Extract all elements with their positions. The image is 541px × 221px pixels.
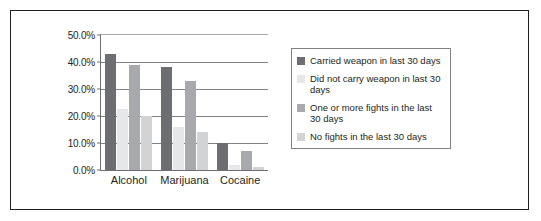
legend-item-label: One or more fights in the last 30 days bbox=[310, 102, 445, 125]
x-axis-category-label: Cocaine bbox=[220, 174, 260, 186]
bar bbox=[185, 81, 196, 170]
chart-legend: Carried weapon in last 30 daysDid not ca… bbox=[291, 48, 451, 149]
plot-area: 50.0%40.0%30.0%20.0%10.0%0.0% AlcoholMar… bbox=[100, 34, 268, 171]
legend-item: Carried weapon in last 30 days bbox=[297, 55, 445, 67]
bar bbox=[141, 116, 152, 170]
legend-item: Did not carry weapon in last 30 days bbox=[297, 73, 445, 96]
bar-group: Cocaine bbox=[212, 35, 268, 170]
bar bbox=[229, 165, 240, 170]
bar bbox=[217, 143, 228, 170]
bar bbox=[173, 127, 184, 170]
bar bbox=[117, 109, 128, 170]
bar-groups: AlcoholMarijuanaCocaine bbox=[101, 35, 268, 170]
bar-group: Alcohol bbox=[101, 35, 157, 170]
bar bbox=[241, 151, 252, 170]
legend-swatch-icon bbox=[297, 133, 305, 141]
legend-swatch-icon bbox=[297, 104, 305, 112]
y-axis-tick-label: 50.0% bbox=[68, 30, 95, 41]
bar-group: Marijuana bbox=[157, 35, 213, 170]
bar bbox=[129, 65, 140, 170]
bar bbox=[197, 132, 208, 170]
legend-item-label: No fights in the last 30 days bbox=[310, 131, 427, 143]
legend-item: One or more fights in the last 30 days bbox=[297, 102, 445, 125]
legend-item-label: Carried weapon in last 30 days bbox=[310, 55, 440, 67]
legend-item: No fights in the last 30 days bbox=[297, 131, 445, 143]
legend-item-label: Did not carry weapon in last 30 days bbox=[310, 73, 445, 96]
legend-swatch-icon bbox=[297, 57, 305, 65]
chart-figure-frame: 50.0%40.0%30.0%20.0%10.0%0.0% AlcoholMar… bbox=[10, 10, 529, 210]
bar bbox=[161, 67, 172, 170]
x-axis-category-label: Alcohol bbox=[111, 174, 147, 186]
y-axis-tick-label: 20.0% bbox=[68, 111, 95, 122]
x-axis-category-label: Marijuana bbox=[160, 174, 208, 186]
y-axis-tick-label: 40.0% bbox=[68, 57, 95, 68]
y-axis-tick-label: 10.0% bbox=[68, 138, 95, 149]
y-axis-tick-label: 30.0% bbox=[68, 84, 95, 95]
y-axis-tick-label: 0.0% bbox=[73, 165, 95, 176]
bar bbox=[253, 167, 264, 170]
legend-swatch-icon bbox=[297, 75, 305, 83]
bar bbox=[105, 54, 116, 170]
